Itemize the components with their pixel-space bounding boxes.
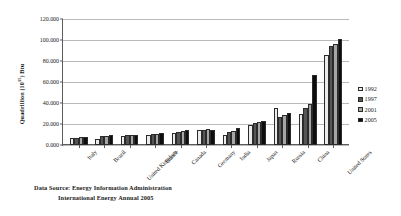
x-axis-tick-mark: [104, 145, 105, 148]
x-axis-category-label: China: [316, 149, 330, 163]
y-axis-title-exponent: 15: [17, 77, 22, 82]
x-axis-category-label: India: [239, 149, 252, 162]
source-caption: Data Source: Energy Information Administ…: [34, 183, 294, 202]
x-axis-tick-mark: [155, 145, 156, 148]
x-axis-tick-mark: [257, 145, 258, 148]
bar: [159, 133, 163, 145]
x-axis-tick-mark: [206, 145, 207, 148]
legend-item: 1992: [358, 86, 377, 92]
x-axis-tick-mark: [130, 145, 131, 148]
x-axis-tick-mark: [282, 145, 283, 148]
bar: [185, 130, 189, 145]
bar: [83, 137, 87, 145]
bar-group: [219, 19, 244, 145]
x-axis-tick-mark: [231, 145, 232, 148]
y-axis-tick-label: 120.000: [40, 16, 59, 22]
y-axis-tick-label: 80.000: [43, 58, 59, 64]
chart-legend: 1992199720012005: [358, 86, 377, 123]
bar-groups: [63, 19, 349, 145]
legend-label: 1997: [365, 96, 377, 102]
bar: [287, 113, 291, 145]
legend-swatch: [358, 118, 363, 123]
x-axis-tick-mark: [308, 145, 309, 148]
y-axis-tick-label: 100.000: [40, 37, 59, 43]
bar-group: [244, 19, 269, 145]
y-axis-title-main: Quadrillion (10: [18, 82, 25, 124]
bar-chart: Quadrillion (1015) Btu 0.00020.00040.000…: [0, 0, 401, 216]
y-axis-tick-label: 60.000: [43, 79, 59, 85]
legend-swatch: [358, 107, 363, 112]
x-axis-category-label: Japan: [265, 149, 279, 163]
bar: [134, 135, 138, 146]
bar: [338, 39, 342, 145]
bar-group: [193, 19, 218, 145]
legend-swatch: [358, 87, 363, 92]
bar-group: [270, 19, 295, 145]
bar: [236, 128, 240, 145]
legend-label: 1992: [365, 86, 377, 92]
legend-item: 2001: [358, 107, 377, 113]
x-axis-category-label: Brazil: [112, 149, 126, 163]
x-axis-category-label: France: [164, 149, 180, 165]
legend-label: 2001: [365, 107, 377, 113]
y-axis-title-tail: ) Btu: [18, 64, 25, 78]
x-axis-category-label: Canada: [190, 149, 207, 166]
bar: [261, 121, 265, 145]
source-caption-line-2: International Energy Annual 2005: [34, 193, 294, 203]
legend-swatch: [358, 97, 363, 102]
x-axis-category-label: Italy: [86, 149, 98, 161]
x-axis-tick-mark: [79, 145, 80, 148]
x-axis-tick-mark: [181, 145, 182, 148]
y-axis-title: Quadrillion (1015) Btu: [14, 28, 26, 160]
bar: [109, 135, 113, 145]
y-axis-tick-label: 0.000: [46, 142, 59, 148]
x-axis-category-label: United States: [346, 149, 373, 176]
bar: [312, 75, 316, 145]
plot-area: 0.00020.00040.00060.00080.000100.000120.…: [63, 19, 349, 145]
legend-item: 1997: [358, 96, 377, 102]
x-axis-tick-mark: [333, 145, 334, 148]
bar-group: [117, 19, 142, 145]
bar-group: [295, 19, 320, 145]
bar-group: [142, 19, 167, 145]
y-axis-tick-label: 20.000: [43, 121, 59, 127]
x-axis-category-label: Germany: [216, 149, 236, 169]
x-axis-category-label: Russia: [291, 149, 306, 164]
bar-group: [91, 19, 116, 145]
bar-group: [168, 19, 193, 145]
legend-item: 2005: [358, 117, 377, 123]
bar-group: [66, 19, 91, 145]
legend-label: 2005: [365, 117, 377, 123]
bar-group: [321, 19, 346, 145]
bar: [210, 130, 214, 145]
source-caption-line-1: Data Source: Energy Information Administ…: [34, 184, 172, 191]
y-axis-tick-label: 40.000: [43, 100, 59, 106]
